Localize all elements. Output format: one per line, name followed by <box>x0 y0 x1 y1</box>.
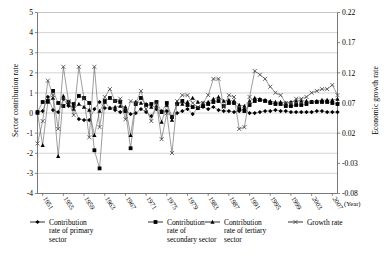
diamond-marker-icon <box>222 109 226 113</box>
y-axis-right-tick-label: 0.02 <box>342 129 355 138</box>
x-axis-tick-label: 1991 <box>249 195 262 210</box>
triangle-marker-icon <box>237 103 241 107</box>
diamond-marker-icon <box>77 117 81 121</box>
triangle-marker-icon <box>196 100 200 104</box>
cross-marker-icon <box>304 95 308 99</box>
diamond-marker-icon <box>92 107 96 111</box>
data-series-group <box>35 65 339 170</box>
diamond-marker-icon <box>304 110 308 114</box>
x-axis-tick-label: 1999 <box>290 195 303 211</box>
square-marker-icon <box>124 109 128 113</box>
x-axis-ticks: 1951195519591963196719711975197919831987… <box>42 194 345 212</box>
diamond-marker-icon <box>216 108 220 112</box>
cross-marker-icon <box>263 77 267 81</box>
chart-plot-area: 543210-1-2-3-4 0.220.170.120.070.02-0.03… <box>0 0 390 261</box>
y-axis-right-tick-label: 0.07 <box>342 99 355 108</box>
cross-marker-icon <box>279 93 283 97</box>
y-axis-left-tick-label: 5 <box>29 8 33 17</box>
diamond-marker-icon <box>211 105 215 109</box>
square-marker-icon <box>160 110 164 114</box>
x-axis-tick-label: 1967 <box>125 195 138 211</box>
y-axis-left-tick-label: 2 <box>29 69 33 78</box>
square-marker-icon <box>217 99 221 103</box>
cross-marker-icon <box>268 85 272 89</box>
x-axis-tick-label: 1987 <box>228 195 241 211</box>
y-axis-left-tick-label: 4 <box>29 28 33 37</box>
square-marker-icon <box>61 104 65 108</box>
square-marker-icon <box>294 103 298 107</box>
square-marker-icon <box>98 166 102 170</box>
triangle-marker-icon <box>87 108 91 112</box>
y-axis-left-tick-label: 0 <box>29 109 33 118</box>
diamond-marker-icon <box>335 110 339 114</box>
legend-label: sector <box>224 235 242 244</box>
square-marker-icon <box>92 148 96 152</box>
x-axis-unit-label: (Year) <box>344 200 361 208</box>
cross-marker-icon <box>227 93 231 97</box>
triangle-marker-icon <box>61 94 65 98</box>
triangle-marker-icon <box>216 95 220 99</box>
y-axis-left-title: Sector contribution rate <box>11 53 20 149</box>
diamond-marker-icon <box>180 109 184 113</box>
square-marker-icon <box>336 102 340 106</box>
cross-marker-icon <box>129 99 133 103</box>
triangle-marker-icon <box>325 98 329 102</box>
cross-marker-icon <box>139 89 143 93</box>
cross-marker-icon <box>191 101 195 105</box>
diamond-marker-icon <box>227 109 231 113</box>
y-axis-left-tick-label: 3 <box>29 48 33 57</box>
y-axis-right-tick-label: -0.08 <box>342 189 358 198</box>
x-axis-tick-label: 1951 <box>42 195 55 210</box>
diamond-marker-icon <box>299 110 303 114</box>
triangle-marker-icon <box>160 120 164 124</box>
square-marker-icon <box>139 96 143 100</box>
diamond-marker-icon <box>118 110 122 114</box>
diamond-marker-icon <box>325 110 329 114</box>
triangle-marker-icon <box>191 96 195 100</box>
cross-marker-icon <box>315 89 319 93</box>
diamond-marker-icon <box>253 111 257 115</box>
square-marker-icon <box>77 94 81 98</box>
series-triangle <box>35 94 339 158</box>
square-marker-icon <box>237 107 241 111</box>
square-marker-icon <box>87 101 91 105</box>
legend-item[interactable]: Contributionrate of primarysector <box>30 218 94 244</box>
cross-marker-icon <box>108 87 112 91</box>
diamond-marker-icon <box>279 109 283 113</box>
diamond-marker-icon <box>294 110 298 114</box>
diamond-marker-icon <box>320 109 324 113</box>
y-axis-left-tick-label: -2 <box>27 149 34 158</box>
diamond-marker-icon <box>268 109 272 113</box>
x-axis-tick-label: 1983 <box>207 195 220 211</box>
y-axis-right-tick-label: 0.22 <box>342 8 355 17</box>
square-marker-icon <box>129 146 133 150</box>
triangle-marker-icon <box>41 143 45 147</box>
diamond-marker-icon <box>289 110 293 114</box>
x-axis-tick-label: 1963 <box>104 195 117 211</box>
triangle-marker-icon <box>185 100 189 104</box>
y-axis-left-tick-label: -4 <box>27 189 34 198</box>
square-marker-icon <box>108 96 112 100</box>
y-axis-right-title: Economic growth rate <box>371 53 380 149</box>
chart-container: Sector contribution rate Economic growth… <box>0 0 390 261</box>
triangle-marker-icon <box>247 99 251 103</box>
legend-item[interactable]: Growth rate <box>288 218 343 227</box>
gridlines-group <box>38 13 338 174</box>
cross-marker-icon <box>149 119 153 123</box>
diamond-marker-icon <box>315 109 319 113</box>
chart-legend: Contributionrate of primarysectorContrib… <box>30 218 343 244</box>
x-axis-tick-label: 1995 <box>269 195 282 211</box>
x-axis-tick-label: 1979 <box>187 195 200 211</box>
y-axis-left-tick-label: -3 <box>27 169 34 178</box>
triangle-marker-icon <box>335 97 339 101</box>
triangle-marker-icon <box>279 100 283 104</box>
x-axis-tick-label: 1975 <box>166 195 179 211</box>
diamond-marker-icon <box>273 108 277 112</box>
diamond-marker-icon <box>258 110 262 114</box>
y-axis-right-tick-label: 0.12 <box>342 69 355 78</box>
diamond-marker-icon <box>35 220 39 224</box>
y-axis-right-tick-label: -0.03 <box>342 159 358 168</box>
square-marker-icon <box>299 103 303 107</box>
diamond-marker-icon <box>284 109 288 113</box>
cross-marker-icon <box>330 83 334 87</box>
